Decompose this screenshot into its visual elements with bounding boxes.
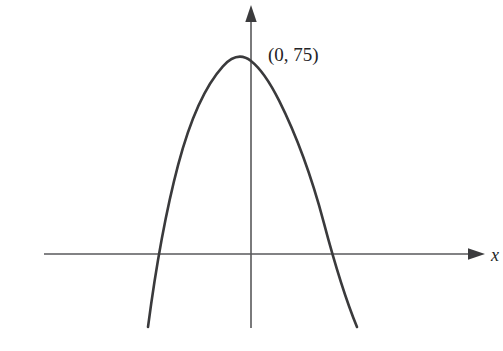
y-axis-arrow-icon: [245, 5, 256, 22]
figure-canvas: (0, 75) x: [0, 0, 503, 351]
parabola-curve: [148, 57, 357, 327]
x-axis-arrow-icon: [468, 248, 485, 260]
x-axis-label: x: [490, 245, 499, 265]
parabola-graph: (0, 75) x: [0, 0, 503, 351]
vertex-coordinate-label: (0, 75): [268, 44, 319, 66]
